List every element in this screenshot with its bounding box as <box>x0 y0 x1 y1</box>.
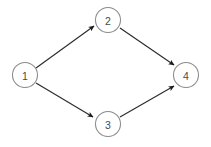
graph-diagram: 1 2 3 4 <box>0 0 211 147</box>
edges-group <box>36 26 174 117</box>
node-1[interactable]: 1 <box>13 63 38 88</box>
node-4[interactable]: 4 <box>174 63 199 88</box>
edge-3-to-4 <box>120 86 174 117</box>
node-1-label: 1 <box>22 70 28 82</box>
edge-1-to-3 <box>36 83 93 117</box>
graph-canvas: 1 2 3 4 <box>0 0 211 147</box>
node-3-label: 3 <box>105 119 111 131</box>
node-4-label: 4 <box>183 70 189 82</box>
node-2[interactable]: 2 <box>96 8 121 33</box>
nodes-group: 1 2 3 4 <box>13 8 199 137</box>
node-3[interactable]: 3 <box>96 112 121 137</box>
node-2-label: 2 <box>105 15 111 27</box>
edge-2-to-4 <box>120 28 174 65</box>
edge-1-to-2 <box>36 26 94 68</box>
